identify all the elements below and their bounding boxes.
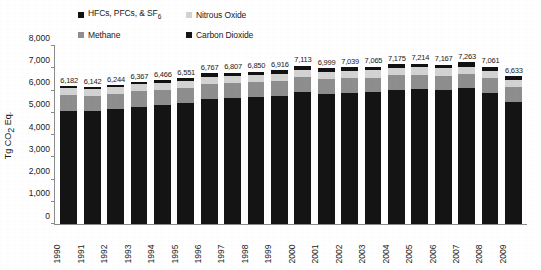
bar-series-container: 6,1826,1426,2446,3676,4666,5516,7676,807… bbox=[55, 46, 527, 224]
y-tick-label: 3,000 bbox=[29, 145, 50, 154]
bar-segment-carbon-dioxide bbox=[458, 88, 475, 224]
bar-segment-carbon-dioxide bbox=[248, 97, 265, 224]
bar-segment-carbon-dioxide bbox=[435, 90, 452, 224]
bar-slot: 7,061 bbox=[478, 46, 501, 224]
bar-value-label: 7,214 bbox=[411, 54, 429, 62]
bar-segment-nitrous-oxide bbox=[435, 68, 452, 75]
bar-slot: 6,916 bbox=[268, 46, 291, 224]
stacked-bar[interactable]: 7,167 bbox=[435, 65, 452, 224]
stacked-bar[interactable]: 6,999 bbox=[318, 68, 335, 224]
stacked-bar[interactable]: 6,182 bbox=[60, 86, 77, 224]
stacked-bar[interactable]: 7,113 bbox=[294, 66, 311, 224]
bar-slot: 6,767 bbox=[197, 46, 220, 224]
square-marker-ch4-icon bbox=[78, 32, 84, 38]
bar-segment-nitrous-oxide bbox=[224, 76, 241, 83]
bar-slot: 7,167 bbox=[432, 46, 455, 224]
stacked-bar[interactable]: 6,850 bbox=[248, 72, 265, 224]
bar-segment-carbon-dioxide bbox=[60, 111, 77, 224]
bar-slot: 7,175 bbox=[385, 46, 408, 224]
bar-segment-carbon-dioxide bbox=[154, 105, 171, 224]
y-tick-label: 2,000 bbox=[29, 167, 50, 176]
bar-segment-nitrous-oxide bbox=[318, 72, 335, 79]
stacked-bar[interactable]: 6,244 bbox=[107, 85, 124, 224]
bar-segment-nitrous-oxide bbox=[341, 71, 358, 78]
bar-segment-nitrous-oxide bbox=[60, 88, 77, 95]
y-tick-label: 7,000 bbox=[29, 56, 50, 65]
bar-segment-nitrous-oxide bbox=[365, 70, 382, 77]
bar-segment-carbon-dioxide bbox=[341, 93, 358, 224]
stacked-bar[interactable]: 6,367 bbox=[131, 82, 148, 224]
x-axis-labels: 1990199119921993199419951996199719981999… bbox=[54, 228, 527, 268]
legend-label-hfcs: HFCs, PFCs, & SF6 bbox=[88, 9, 161, 21]
stacked-bar[interactable]: 6,807 bbox=[224, 73, 241, 224]
bar-segment-methane bbox=[294, 77, 311, 92]
bar-segment-carbon-dioxide bbox=[388, 90, 405, 224]
bar-segment-nitrous-oxide bbox=[411, 67, 428, 74]
bar-segment-methane bbox=[341, 78, 358, 93]
legend-label-methane: Methane bbox=[88, 31, 120, 40]
bar-value-label: 7,065 bbox=[365, 57, 383, 65]
square-marker-n2o-icon bbox=[186, 12, 192, 18]
bar-segment-methane bbox=[435, 76, 452, 91]
stacked-bar[interactable]: 6,466 bbox=[154, 80, 171, 224]
stacked-bar[interactable]: 6,916 bbox=[271, 70, 288, 224]
bar-segment-nitrous-oxide bbox=[107, 87, 124, 94]
bar-segment-carbon-dioxide bbox=[131, 107, 148, 224]
legend-item-hfcs: HFCs, PFCs, & SF6 bbox=[78, 9, 186, 21]
square-marker-co2-icon bbox=[186, 32, 192, 38]
stacked-bar[interactable]: 7,214 bbox=[411, 64, 428, 225]
bar-value-label: 6,551 bbox=[177, 69, 195, 77]
bar-segment-methane bbox=[154, 90, 171, 105]
plot-area: 8,0007,0006,0005,0004,0003,0002,0001,000… bbox=[54, 46, 527, 225]
bar-segment-carbon-dioxide bbox=[482, 93, 499, 224]
bar-value-label: 6,182 bbox=[60, 77, 78, 85]
square-marker-hfc-icon bbox=[78, 12, 84, 18]
bar-segment-nitrous-oxide bbox=[294, 70, 311, 77]
bar-value-label: 7,167 bbox=[435, 55, 453, 63]
bar-segment-nitrous-oxide bbox=[201, 77, 218, 84]
stacked-bar[interactable]: 6,551 bbox=[177, 78, 194, 224]
stacked-bar-chart: HFCs, PFCs, & SF6 Nitrous Oxide Methane … bbox=[0, 0, 541, 270]
stacked-bar[interactable]: 7,065 bbox=[365, 67, 382, 224]
bar-segment-methane bbox=[271, 81, 288, 96]
chart-legend: HFCs, PFCs, & SF6 Nitrous Oxide Methane … bbox=[78, 8, 328, 40]
bar-slot: 6,466 bbox=[151, 46, 174, 224]
stacked-bar[interactable]: 6,633 bbox=[505, 76, 522, 224]
bar-segment-carbon-dioxide bbox=[294, 92, 311, 224]
y-tick-label: 8,000 bbox=[29, 33, 50, 42]
bar-segment-nitrous-oxide bbox=[177, 81, 194, 88]
bar-segment-nitrous-oxide bbox=[458, 67, 475, 74]
bar-segment-nitrous-oxide bbox=[388, 68, 405, 75]
bar-value-label: 6,367 bbox=[131, 73, 149, 81]
bar-segment-methane bbox=[411, 75, 428, 90]
bar-segment-methane bbox=[60, 95, 77, 111]
stacked-bar[interactable]: 6,142 bbox=[84, 87, 101, 224]
bar-segment-methane bbox=[365, 78, 382, 93]
bar-segment-nitrous-oxide bbox=[271, 74, 288, 81]
legend-item-methane: Methane bbox=[78, 31, 186, 40]
bar-segment-methane bbox=[482, 78, 499, 92]
bar-slot: 7,214 bbox=[408, 46, 431, 224]
bar-segment-methane bbox=[107, 94, 124, 109]
bar-slot: 7,263 bbox=[455, 46, 478, 224]
bar-slot: 6,367 bbox=[127, 46, 150, 224]
bar-slot: 6,182 bbox=[57, 46, 80, 224]
stacked-bar[interactable]: 7,061 bbox=[482, 67, 499, 224]
bar-value-label: 6,244 bbox=[107, 76, 125, 84]
bar-segment-methane bbox=[131, 91, 148, 106]
stacked-bar[interactable]: 7,175 bbox=[388, 64, 405, 224]
bar-value-label: 6,850 bbox=[248, 62, 266, 70]
bar-segment-carbon-dioxide bbox=[411, 89, 428, 224]
stacked-bar[interactable]: 6,767 bbox=[201, 73, 218, 224]
bar-segment-methane bbox=[224, 83, 241, 98]
y-tick-label: 0 bbox=[45, 211, 50, 220]
bar-slot: 7,065 bbox=[361, 46, 384, 224]
bar-segment-carbon-dioxide bbox=[505, 102, 522, 224]
legend-item-carbon-dioxide: Carbon Dioxide bbox=[186, 31, 306, 40]
bar-value-label: 7,175 bbox=[388, 55, 406, 63]
stacked-bar[interactable]: 7,039 bbox=[341, 67, 358, 224]
bar-value-label: 6,633 bbox=[505, 67, 523, 75]
legend-row-bottom: Methane Carbon Dioxide bbox=[78, 28, 328, 42]
x-label-slot: 2009 bbox=[502, 228, 525, 268]
stacked-bar[interactable]: 7,263 bbox=[458, 62, 475, 224]
